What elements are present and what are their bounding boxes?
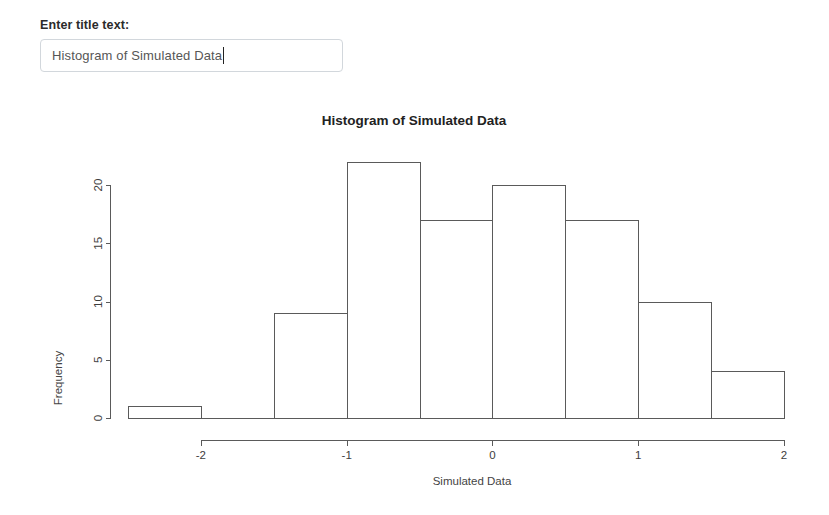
histogram-bar: [347, 162, 420, 418]
y-axis: [106, 186, 111, 419]
x-axis: [201, 441, 784, 446]
title-control-panel: Enter title text:: [40, 18, 360, 72]
x-tick-labels: -2-1012: [196, 449, 787, 461]
y-tick-labels: 05101520: [92, 179, 104, 422]
histogram-bar: [129, 407, 202, 419]
title-input-label: Enter title text:: [40, 18, 360, 32]
bars-group: [129, 162, 785, 418]
x-tick-label: 1: [635, 449, 641, 461]
y-tick-label: 0: [92, 415, 104, 421]
x-axis-label: Simulated Data: [433, 475, 512, 487]
text-cursor: [223, 47, 224, 64]
title-input-container[interactable]: [40, 39, 343, 72]
histogram-bar: [639, 302, 712, 419]
histogram-bar: [274, 314, 347, 419]
histogram-bar: [493, 186, 566, 419]
y-tick-label: 20: [92, 179, 104, 192]
histogram-bar: [712, 372, 785, 419]
histogram-bar: [420, 220, 493, 418]
y-tick-label: 15: [92, 237, 104, 250]
plot-canvas: Histogram of Simulated Data Frequency Si…: [0, 95, 829, 515]
histogram-plot: Histogram of Simulated Data Frequency Si…: [0, 95, 829, 515]
title-input[interactable]: [41, 40, 342, 71]
y-tick-label: 10: [92, 295, 104, 308]
histogram-bar: [566, 220, 639, 418]
x-tick-label: -1: [342, 449, 352, 461]
x-tick-label: 2: [781, 449, 787, 461]
y-axis-label: Frequency: [52, 351, 64, 406]
x-tick-label: 0: [489, 449, 495, 461]
y-tick-label: 5: [92, 357, 104, 363]
chart-title: Histogram of Simulated Data: [322, 113, 507, 128]
x-tick-label: -2: [196, 449, 206, 461]
